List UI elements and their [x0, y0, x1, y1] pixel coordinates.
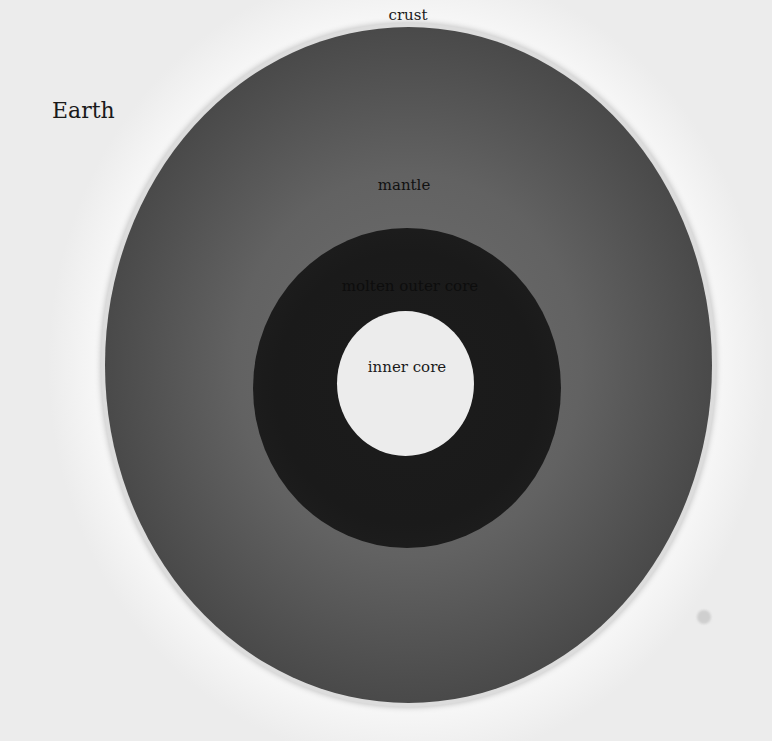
earth-cross-section-diagram: Earth crust mantle molten outer core inn…	[0, 0, 772, 741]
outer-core-label: molten outer core	[342, 277, 478, 295]
inner-core-label: inner core	[368, 358, 446, 376]
crust-label: crust	[389, 6, 428, 24]
paper-smudge	[697, 610, 711, 624]
diagram-title: Earth	[52, 98, 115, 123]
inner-core-layer	[337, 311, 474, 456]
mantle-label: mantle	[378, 176, 431, 194]
